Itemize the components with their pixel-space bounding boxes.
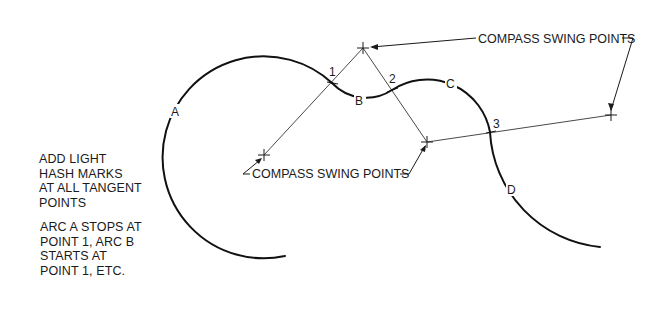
note-line: POINTS [39,196,142,211]
note-line: ADD LIGHT [39,152,142,167]
tangent-point-1: 1 [329,65,336,79]
leader-to-point-b [372,38,476,47]
note-arc-sequence: ARC A STOPS AT POINT 1, ARC B STARTS AT … [40,220,142,278]
compass-point-c-icon [421,136,433,148]
radius-line-c-d [427,115,611,142]
note-line: POINT 1, ARC B [40,235,142,250]
tangent-hash-marks [327,82,496,133]
arc-label-b: B [355,94,363,108]
diagram-canvas: A B C D 1 2 3 COMPASS SWING POINTS COMPA… [0,0,669,309]
arc-a [163,56,332,258]
note-line: AT ALL TANGENT [39,181,142,196]
callout-top-label: COMPASS SWING POINTS [478,32,635,46]
callout-top-leaders [372,38,633,110]
radius-line-b-c [363,48,427,142]
note-line: STARTS AT [40,249,142,264]
radius-line-a-b [264,48,363,155]
arc-label-a: A [171,105,179,119]
tangent-point-2: 2 [389,72,396,86]
note-hash-marks: ADD LIGHT HASH MARKS AT ALL TANGENT POIN… [39,152,142,210]
leader-to-point-d [611,38,633,110]
callout-bottom-label: COMPASS SWING POINTS [252,167,409,181]
arc-c [392,80,490,132]
construction-lines [264,48,611,155]
note-line: POINT 1, ETC. [40,264,142,279]
tangent-point-3: 3 [493,117,500,131]
arrowhead-icon [370,44,378,50]
compass-points [258,42,617,161]
arc-label-c: C [446,77,455,91]
note-line: HASH MARKS [39,167,142,182]
note-line: ARC A STOPS AT [40,220,142,235]
arc-label-d: D [507,183,516,197]
arcs [163,56,600,258]
arrowhead-icon [608,103,614,111]
arrowheads-top [370,44,614,111]
arrowhead-icon [420,145,426,152]
arrowheads-bottom [255,145,426,164]
